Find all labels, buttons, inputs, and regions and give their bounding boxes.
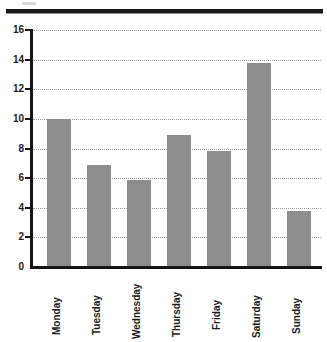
chart-figure: 16 14 12 10 8 6 4 2 0 Monday Tuesday Wed…: [0, 0, 327, 342]
x-tick-label-monday: Monday: [52, 297, 62, 335]
x-tick-label-friday: Friday: [212, 300, 222, 330]
x-tick-label-wednesday: Wednesday: [132, 284, 142, 339]
x-tick-label-sunday: Sunday: [292, 298, 302, 334]
x-tick-label-tuesday: Tuesday: [92, 295, 102, 335]
x-axis-tick-labels: Monday Tuesday Wednesday Thursday Friday…: [0, 0, 327, 342]
x-tick-label-thursday: Thursday: [172, 292, 182, 337]
x-tick-label-saturday: Saturday: [252, 295, 262, 338]
